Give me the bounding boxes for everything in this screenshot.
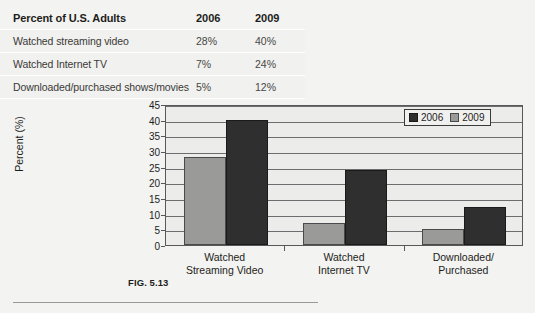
gridline bbox=[166, 137, 522, 138]
figure-page: Percent of U.S. Adults 2006 2009 Watched… bbox=[0, 0, 535, 313]
y-axis-tick-label: 15 bbox=[138, 194, 160, 205]
table-cell-2009: 40% bbox=[255, 35, 276, 47]
y-axis-tick-mark bbox=[161, 215, 165, 216]
gridline bbox=[166, 106, 522, 107]
bar-2006-1 bbox=[303, 223, 345, 245]
y-axis-tick-label: 35 bbox=[138, 131, 160, 142]
table-row: Watched streaming video 28% 40% bbox=[0, 30, 305, 53]
table-cell-2009: 12% bbox=[255, 81, 276, 93]
y-axis-tick-mark bbox=[161, 183, 165, 184]
legend-label: 2006 bbox=[421, 112, 443, 123]
x-axis-category-line: Internet TV bbox=[284, 264, 403, 277]
table-header-col-2009: 2009 bbox=[255, 12, 279, 24]
table-header-row: Percent of U.S. Adults 2006 2009 bbox=[0, 6, 305, 30]
x-axis-category-label: Downloaded/Purchased bbox=[404, 251, 523, 276]
x-axis-category-line: Watched bbox=[165, 251, 284, 264]
legend-swatch-icon bbox=[409, 113, 418, 122]
y-axis-tick-mark bbox=[161, 168, 165, 169]
table-row: Watched Internet TV 7% 24% bbox=[0, 53, 305, 76]
bar-chart: Percent (%) 051015202530354045 2006 2009… bbox=[0, 100, 535, 260]
bar-2006-2 bbox=[422, 229, 464, 245]
table-cell-2006: 7% bbox=[196, 58, 211, 70]
table-row-label: Downloaded/purchased shows/movies bbox=[13, 81, 189, 93]
y-axis-tick-label: 0 bbox=[138, 241, 160, 252]
legend-label: 2009 bbox=[462, 112, 484, 123]
data-table: Percent of U.S. Adults 2006 2009 Watched… bbox=[0, 6, 305, 99]
table-cell-2009: 24% bbox=[255, 58, 276, 70]
y-axis-tick-mark bbox=[161, 105, 165, 106]
table-row: Downloaded/purchased shows/movies 5% 12% bbox=[0, 76, 305, 99]
x-axis-category-line: Streaming Video bbox=[165, 264, 284, 277]
y-axis-tick-mark bbox=[161, 199, 165, 200]
legend-item-2006: 2006 bbox=[409, 112, 443, 123]
y-axis-tick-label: 5 bbox=[138, 225, 160, 236]
y-axis-tick-label: 25 bbox=[138, 162, 160, 173]
bar-2009-0 bbox=[226, 120, 268, 245]
x-axis-category-label: WatchedStreaming Video bbox=[165, 251, 284, 276]
table-cell-2006: 28% bbox=[196, 35, 217, 47]
table-row-label: Watched streaming video bbox=[13, 35, 129, 47]
y-axis-tick-mark bbox=[161, 152, 165, 153]
table-header-label: Percent of U.S. Adults bbox=[13, 12, 126, 24]
y-axis-tick-label: 20 bbox=[138, 178, 160, 189]
x-axis-category-line: Watched bbox=[284, 251, 403, 264]
bottom-divider bbox=[13, 302, 318, 303]
plot-area bbox=[165, 105, 523, 246]
legend-item-2009: 2009 bbox=[450, 112, 484, 123]
bar-2006-0 bbox=[184, 157, 226, 245]
y-axis-tick-labels: 051015202530354045 bbox=[136, 105, 160, 246]
y-axis-title: Percent (%) bbox=[13, 89, 25, 199]
x-axis-category-label: WatchedInternet TV bbox=[284, 251, 403, 276]
table-header-col-2006: 2006 bbox=[196, 12, 220, 24]
figure-caption: FIG. 5.13 bbox=[128, 277, 169, 288]
bar-2009-2 bbox=[464, 207, 506, 245]
y-axis-tick-mark bbox=[161, 230, 165, 231]
legend-swatch-icon bbox=[450, 113, 459, 122]
table-row-label: Watched Internet TV bbox=[13, 58, 107, 70]
gridline bbox=[166, 153, 522, 154]
x-axis-category-line: Purchased bbox=[404, 264, 523, 277]
x-axis-category-line: Downloaded/ bbox=[404, 251, 523, 264]
table-cell-2006: 5% bbox=[196, 81, 211, 93]
chart-legend: 2006 2009 bbox=[404, 109, 491, 126]
bar-2009-1 bbox=[345, 170, 387, 245]
y-axis-tick-label: 45 bbox=[138, 100, 160, 111]
y-axis-tick-label: 30 bbox=[138, 147, 160, 158]
y-axis-tick-mark bbox=[161, 246, 165, 247]
y-axis-tick-label: 10 bbox=[138, 209, 160, 220]
y-axis-tick-label: 40 bbox=[138, 115, 160, 126]
y-axis-tick-mark bbox=[161, 136, 165, 137]
y-axis-tick-mark bbox=[161, 121, 165, 122]
